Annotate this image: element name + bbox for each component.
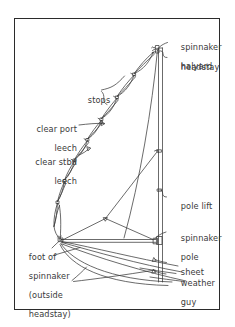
label-clear-stbd-leech-line2: leech — [54, 176, 77, 186]
label-foot-of-spinnaker-line4: headstay) — [29, 309, 71, 319]
label-weather-guy: weather guy — [170, 269, 215, 317]
guy-line — [62, 244, 186, 281]
label-foot-of-spinnaker-line3: (outside — [29, 290, 63, 300]
spinnaker-pole — [62, 238, 158, 244]
label-stops: stops — [77, 86, 110, 115]
leader-sheet — [153, 258, 167, 263]
masthead-fitting — [152, 46, 159, 54]
label-foot-of-spinnaker: foot of spinnaker (outside headstay) — [18, 243, 71, 327]
mast — [159, 48, 163, 282]
label-headstay-line1: headstay — [181, 62, 220, 72]
label-weather-guy-line1: weather — [181, 278, 215, 288]
label-clear-port-leech-line1: clear port — [36, 124, 77, 134]
label-clear-stbd-leech: clear stbd leech — [10, 148, 77, 196]
tack-fitting — [57, 236, 63, 241]
label-stops-line1: stops — [88, 95, 110, 105]
label-spinnaker-halyard-line1: spinnaker — [181, 42, 222, 52]
pole-lift-line — [63, 150, 162, 240]
label-headstay: headstay — [170, 53, 219, 82]
headstay-line — [124, 50, 158, 238]
label-foot-of-spinnaker-line2: spinnaker — [29, 271, 70, 281]
leader-clear-port-leech — [79, 122, 105, 126]
sheet-line — [62, 242, 182, 273]
leader-headstay — [160, 51, 167, 58]
leader-spinnaker-halyard — [160, 43, 168, 48]
label-pole-lift-line1: pole lift — [181, 201, 213, 211]
label-spinnaker-pole-line1: spinnaker — [181, 233, 222, 243]
label-pole-lift: pole lift — [170, 192, 212, 221]
label-foot-of-spinnaker-line1: foot of — [29, 252, 56, 262]
label-weather-guy-line2: guy — [181, 297, 197, 307]
diagram-page: spinnaker halyard headstay stops clear p… — [0, 0, 235, 327]
label-clear-stbd-leech-line1: clear stbd — [35, 157, 77, 167]
